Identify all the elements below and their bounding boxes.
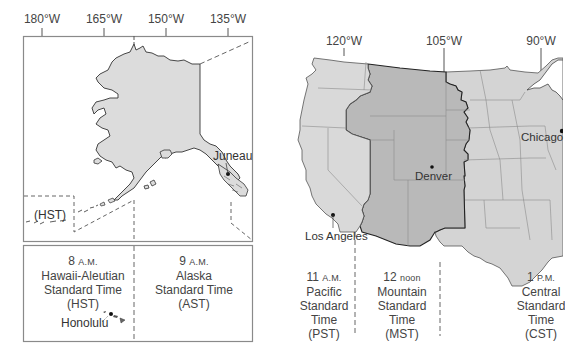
zone-pst: 11 A.M. Pacific Standard Time (PST): [300, 270, 349, 341]
zone-pst-line3: Time: [300, 313, 349, 327]
zone-pst-ampm: A.M.: [322, 273, 341, 283]
longitude-label-105w: 105°W: [426, 34, 462, 48]
zone-pst-name: Pacific: [300, 285, 349, 299]
zone-cst-ampm: P.M.: [537, 273, 555, 283]
zone-hst: 8 A.M. Hawaii-Aleutian Standard Time (HS…: [41, 254, 124, 311]
zone-cst-line2: Standard: [517, 299, 565, 313]
denver-dot: [430, 165, 434, 169]
zone-cst: 1 P.M. Central Standard Time (CST): [517, 270, 565, 341]
city-label-honolulu: Honolulu: [61, 316, 108, 330]
zone-mst-line2: Standard: [377, 299, 426, 313]
zone-cst-abbr: (CST): [517, 327, 565, 341]
zone-cst-line3: Time: [517, 313, 565, 327]
zone-ast-abbr: (AST): [155, 297, 233, 311]
zone-ast-time: 9: [179, 254, 186, 268]
zone-pst-line2: Standard: [300, 299, 349, 313]
zone-hst-ampm: A.M.: [78, 257, 97, 267]
zone-cst-name: Central: [517, 285, 565, 299]
zone-mst: 12 noon Mountain Standard Time (MST): [377, 270, 426, 341]
zone-hst-abbr: (HST): [41, 297, 124, 311]
zone-hst-type: Standard Time: [41, 283, 124, 297]
city-label-los-angeles: Los Angeles: [305, 230, 368, 242]
longitude-label-90w: 90°W: [526, 34, 555, 48]
zone-pst-time: 11: [306, 270, 318, 284]
hst-inset-label: (HST): [34, 208, 66, 222]
zone-mst-abbr: (MST): [377, 327, 426, 341]
longitude-label-120w: 120°W: [326, 34, 362, 48]
zone-ast-ampm: A.M.: [189, 257, 208, 267]
zone-mst-time: 12: [383, 270, 396, 284]
city-label-juneau: Juneau: [213, 149, 252, 163]
longitude-label-180w: 180°W: [24, 12, 60, 26]
longitude-label-135w: 135°W: [210, 12, 246, 26]
zone-pst-abbr: (PST): [300, 327, 349, 341]
longitude-label-150w: 150°W: [148, 12, 184, 26]
zone-mst-name: Mountain: [377, 285, 426, 299]
zone-hst-name: Hawaii-Aleutian: [41, 269, 124, 283]
city-label-denver: Denver: [415, 170, 452, 182]
zone-cst-time: 1: [527, 270, 534, 284]
zone-ast: 9 A.M. Alaska Standard Time (AST): [155, 254, 233, 311]
zone-hst-time: 8: [68, 254, 75, 268]
zone-ast-type: Standard Time: [155, 283, 233, 297]
zone-ast-name: Alaska: [155, 269, 233, 283]
zone-mst-unit: noon: [400, 273, 421, 283]
city-label-chicago: Chicago: [521, 131, 563, 143]
zone-mst-line3: Time: [377, 313, 426, 327]
pacific-zone: [298, 58, 372, 232]
longitude-label-165w: 165°W: [86, 12, 122, 26]
